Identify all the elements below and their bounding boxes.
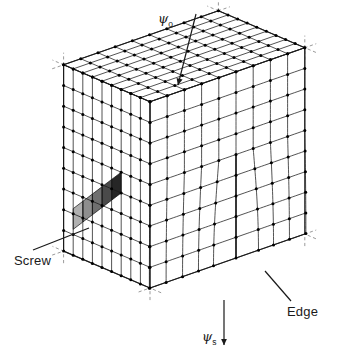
- psi-o-symbol: ψ: [158, 11, 168, 26]
- label-screw: Screw: [14, 254, 51, 267]
- label-psi-o: ψo: [158, 12, 173, 28]
- psi-s-symbol: ψ: [202, 329, 212, 344]
- edge-leader-line: [265, 271, 291, 301]
- psi-o-subscript: o: [168, 19, 173, 29]
- psi-s-subscript: s: [212, 337, 216, 347]
- label-edge: Edge: [287, 305, 318, 318]
- dislocation-figure: ψo ψs Screw Edge: [0, 0, 341, 357]
- label-psi-s: ψs: [202, 330, 216, 346]
